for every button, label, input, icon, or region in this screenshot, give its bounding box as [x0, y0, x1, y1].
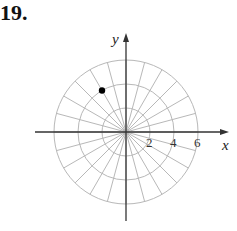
plotted-points: [99, 87, 105, 93]
grid-radial-line-75: [126, 62, 145, 132]
x-axis-arrow-icon: [220, 129, 229, 135]
x-axis-label: x: [221, 137, 229, 153]
grid-radial-line-15: [126, 113, 196, 132]
grid-radial-line-165: [56, 113, 126, 132]
tick-label-4: 4: [170, 135, 177, 150]
polar-coordinate-diagram: x y 2 4 6: [0, 0, 237, 231]
tick-label-6: 6: [194, 135, 201, 150]
grid-radial-line-105: [107, 62, 126, 132]
tick-label-2: 2: [146, 135, 153, 150]
grid-radial-line-195: [56, 132, 126, 151]
plotted-point-0: [99, 87, 105, 93]
y-axis-label: y: [110, 31, 119, 47]
grid-radial-line-345: [126, 132, 196, 151]
grid-radial-line-255: [107, 132, 126, 202]
grid-radial-line-285: [126, 132, 145, 202]
y-axis-arrow-icon: [123, 33, 129, 42]
